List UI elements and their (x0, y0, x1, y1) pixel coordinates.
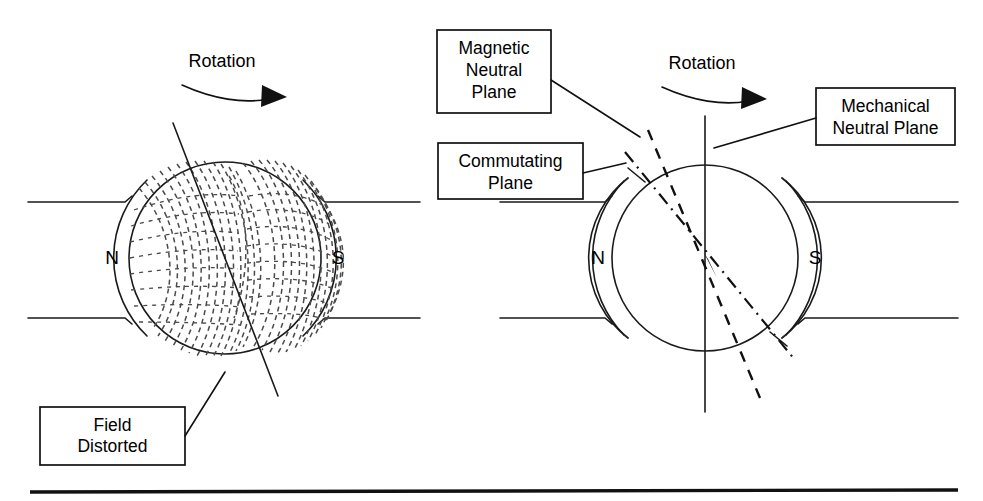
left-rotation-indicator: Rotation (182, 51, 287, 107)
figure-canvas: Rotation N S Field Distorted (0, 0, 983, 501)
right-field-frame-lower-left (500, 318, 612, 324)
right-field-frame-lower-right (798, 318, 958, 324)
footer-horizontal-rule (30, 490, 958, 492)
commutating-plane-callout[interactable]: Commutating Plane (438, 143, 626, 199)
right-diagram-group: Rotation N S Magnetic Neutral Plane Comm… (437, 30, 958, 412)
right-pole-label-north: N (591, 247, 605, 268)
left-rotation-arc (182, 85, 268, 101)
right-field-frame-upper-right (798, 196, 958, 202)
commutating-plane-line1: Commutating (458, 151, 562, 171)
left-field-frame-upper-left (28, 196, 132, 202)
right-pole-label-south: S (809, 247, 822, 268)
magnetic-neutral-plane-callout[interactable]: Magnetic Neutral Plane (437, 30, 640, 137)
left-pole-label-south: S (332, 247, 345, 268)
magnetic-neutral-plane-line2: Neutral (466, 60, 522, 80)
right-rotation-arc (662, 87, 748, 103)
commutating-plane-leader (583, 163, 626, 173)
mechanical-neutral-plane-line1: Mechanical (841, 96, 930, 116)
left-diagram-group: Rotation N S Field Distorted (28, 51, 420, 465)
armature-reaction-diagram: Rotation N S Field Distorted (0, 0, 983, 501)
left-rotation-label: Rotation (188, 51, 255, 71)
commutating-plane-line2: Plane (488, 173, 533, 193)
left-field-frame-lower-right (318, 318, 420, 324)
field-distorted-line2: Distorted (77, 436, 147, 456)
left-field-frame-upper-right (318, 196, 420, 202)
mechanical-neutral-plane-line2: Neutral Plane (832, 118, 938, 138)
right-rotation-arrowhead (741, 87, 767, 109)
left-shifted-neutral-plane-line (173, 123, 278, 396)
field-distorted-callout[interactable]: Field Distorted (40, 372, 225, 465)
magnetic-neutral-plane-line (648, 130, 760, 398)
field-distorted-leader (185, 372, 225, 436)
left-flux-cross-ribs (130, 194, 332, 325)
magnetic-neutral-plane-line3: Plane (472, 82, 517, 102)
left-rotation-arrowhead (261, 85, 287, 107)
left-field-frame-lower-left (28, 318, 132, 324)
field-distorted-line1: Field (94, 415, 132, 435)
left-pole-label-north: N (105, 247, 119, 268)
magnetic-neutral-plane-line1: Magnetic (458, 38, 529, 58)
right-rotation-indicator: Rotation (662, 53, 767, 109)
right-rotation-label: Rotation (668, 53, 735, 73)
mechanical-neutral-plane-leader (714, 118, 816, 148)
magnetic-neutral-plane-leader (551, 80, 640, 137)
